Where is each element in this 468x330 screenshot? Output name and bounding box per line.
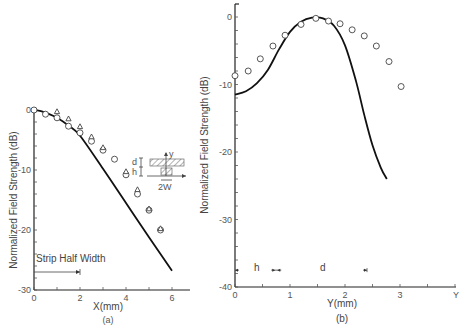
measured-circle-point [270, 43, 276, 49]
panel-b-y-axis-label: Normalized Field Strength (dB) [199, 76, 210, 213]
x-tick-label: 4 [123, 293, 128, 303]
measured-circle-point [77, 130, 83, 136]
panel-a-x-axis-label: X(mm) [93, 301, 123, 312]
y-tick-label: -10 [219, 80, 232, 90]
measured-circle-point [232, 73, 238, 79]
measured-circle-point [54, 115, 60, 121]
measured-circle-point [112, 156, 118, 162]
measured-circle-point [298, 21, 304, 27]
measured-circle-point [282, 32, 288, 38]
panel-a-plot: 02460-10-20-30 [18, 105, 190, 303]
y-tick-label: -20 [18, 225, 31, 235]
theory-curve [34, 110, 172, 271]
measured-circle-point [31, 107, 37, 113]
measured-circle-point [257, 56, 263, 62]
measured-circle-point [386, 59, 392, 65]
y-tick-label: -20 [219, 147, 232, 157]
figure: 02460-10-20-30 0123Y0-10-20-30-40 X(mm) … [0, 0, 468, 330]
x-tick-label: 0 [31, 293, 36, 303]
panel-b-plot: 0123Y0-10-20-30-40 [219, 4, 459, 300]
arrowhead-icon [277, 269, 280, 272]
h-region-label: h [254, 262, 260, 273]
y-tick-label: -10 [18, 165, 31, 175]
measured-triangle-point [100, 145, 105, 150]
measured-triangle-point [89, 134, 94, 139]
x-tick-label: 2 [77, 293, 82, 303]
y-tick-label: 0 [26, 105, 31, 115]
measured-circle-point [66, 123, 72, 129]
measured-circle-point [337, 21, 343, 27]
arrowhead-icon [76, 270, 80, 274]
x-tick-label: 3 [397, 290, 402, 300]
measured-circle-point [361, 33, 367, 39]
d-region-label: d [320, 262, 326, 273]
measured-circle-point [43, 111, 49, 117]
panel-b-caption: (b) [336, 313, 348, 324]
panel-a-y-axis-label: Normalized Field Strength (dB) [8, 131, 19, 268]
strip-geometry-inset: y d h 2W [132, 149, 186, 192]
y-tick-label: -30 [18, 285, 31, 295]
inset-y-label: y [169, 149, 174, 159]
measured-circle-point [373, 43, 379, 49]
measured-circle-point [313, 15, 319, 21]
measured-triangle-point [77, 124, 82, 129]
inset-2w-label: 2W [158, 182, 172, 192]
measured-circle-point [349, 27, 355, 33]
panel-b-x-axis-label: Y(mm) [327, 298, 357, 309]
arrowhead-icon [272, 269, 275, 272]
x-tick-label: 1 [287, 290, 292, 300]
measured-circle-point [245, 68, 251, 74]
measured-triangle-point [123, 169, 128, 174]
measured-triangle-point [66, 116, 71, 121]
arrowhead-icon [364, 269, 367, 272]
inset-d-label: d [132, 157, 137, 167]
x-tick-label: 6 [169, 293, 174, 303]
measured-triangle-point [54, 109, 59, 114]
measured-circle-point [398, 84, 404, 90]
x-axis-end-label: Y [453, 290, 459, 300]
y-tick-label: 0 [227, 12, 232, 22]
inset-h-label: h [132, 167, 137, 177]
y-tick-label: -30 [219, 215, 232, 225]
theory-curve [235, 17, 387, 179]
x-tick-label: 0 [232, 290, 237, 300]
panel-a-caption: (a) [103, 315, 114, 325]
measured-circle-point [326, 18, 332, 24]
strip-half-width-annotation: Strip Half Width [36, 253, 105, 264]
measured-triangle-point [135, 187, 140, 192]
y-tick-label: -40 [219, 282, 232, 292]
